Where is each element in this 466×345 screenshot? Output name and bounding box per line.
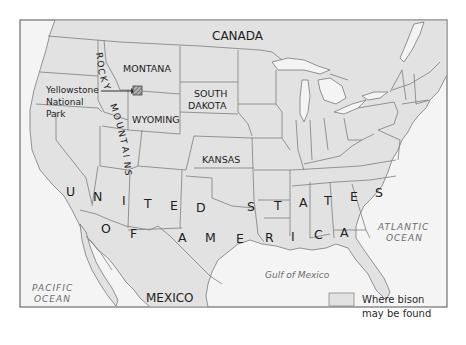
legend-line-1: Where bison (362, 294, 424, 305)
svg-text:A: A (299, 195, 308, 210)
svg-text:E: E (350, 189, 358, 204)
label-yellowstone-1: Yellowstone (45, 85, 99, 95)
label-pacific-2: OCEAN (34, 294, 71, 304)
label-gulf-of-mexico: Gulf of Mexico (265, 270, 330, 280)
label-mexico: MEXICO (146, 291, 194, 305)
svg-text:N: N (93, 189, 102, 204)
svg-text:C: C (314, 227, 323, 242)
svg-text:F: F (130, 226, 137, 241)
label-pacific-1: PACIFIC (32, 283, 73, 293)
label-atlantic-2: OCEAN (386, 233, 423, 243)
svg-text:S: S (123, 169, 133, 176)
svg-text:I: I (122, 193, 126, 208)
svg-text:T: T (143, 196, 152, 211)
svg-text:N: N (122, 161, 133, 169)
svg-text:A: A (178, 230, 187, 245)
bison-range-map: CANADA MEXICO MONTANA SOUTH DAKOTA WYOMI… (0, 0, 466, 345)
hatched-square-icon (133, 86, 142, 95)
svg-text:A: A (340, 225, 349, 240)
label-kansas: KANSAS (202, 154, 240, 165)
label-yellowstone-3: Park (46, 109, 66, 119)
svg-text:E: E (236, 231, 244, 246)
svg-text:D: D (196, 200, 206, 215)
svg-text:T: T (323, 193, 332, 208)
legend-line-2: may be found (362, 308, 431, 319)
label-south-dakota-2: DAKOTA (188, 100, 227, 111)
svg-text:O: O (101, 221, 111, 236)
svg-text:R: R (265, 230, 274, 245)
label-wyoming: WYOMING (132, 114, 180, 125)
label-atlantic-1: ATLANTIC (377, 222, 429, 232)
label-montana: MONTANA (123, 63, 171, 74)
svg-text:I: I (291, 229, 295, 244)
svg-text:U: U (66, 184, 75, 199)
svg-text:T: T (273, 198, 282, 213)
label-canada: CANADA (212, 29, 264, 43)
svg-text:S: S (247, 199, 255, 214)
label-yellowstone-2: National (46, 97, 84, 107)
svg-text:S: S (375, 185, 383, 200)
legend-swatch-icon (329, 293, 354, 306)
svg-text:E: E (170, 198, 178, 213)
label-south-dakota-1: SOUTH (194, 88, 227, 99)
svg-text:M: M (205, 230, 216, 245)
